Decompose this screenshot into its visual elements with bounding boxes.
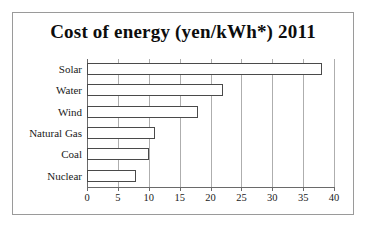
bar-wind bbox=[87, 106, 198, 118]
bar-row: Wind bbox=[87, 102, 334, 123]
bar-water bbox=[87, 84, 223, 96]
x-tick-15 bbox=[180, 187, 181, 191]
bar-coal bbox=[87, 148, 149, 160]
x-tick-25 bbox=[241, 187, 242, 191]
plot-area: SolarWaterWindNatural GasCoalNuclear 051… bbox=[87, 59, 334, 187]
bar-row: Coal bbox=[87, 144, 334, 165]
chart-title: Cost of energy (yen/kWh*) 2011 bbox=[13, 21, 353, 43]
category-label-nuclear: Nuclear bbox=[47, 167, 82, 185]
category-label-water: Water bbox=[56, 81, 82, 99]
x-tick-label-10: 10 bbox=[137, 192, 161, 204]
x-tick-label-5: 5 bbox=[106, 192, 130, 204]
x-tick-label-25: 25 bbox=[229, 192, 253, 204]
x-tick-label-20: 20 bbox=[199, 192, 223, 204]
x-tick-label-15: 15 bbox=[168, 192, 192, 204]
x-tick-30 bbox=[272, 187, 273, 191]
x-tick-10 bbox=[149, 187, 150, 191]
x-tick-35 bbox=[303, 187, 304, 191]
x-tick-0 bbox=[87, 187, 88, 191]
x-tick-label-40: 40 bbox=[322, 192, 346, 204]
x-tick-40 bbox=[334, 187, 335, 191]
x-tick-20 bbox=[211, 187, 212, 191]
category-label-solar: Solar bbox=[59, 60, 82, 78]
category-label-natural-gas: Natural Gas bbox=[29, 124, 82, 142]
bar-series: SolarWaterWindNatural GasCoalNuclear bbox=[87, 59, 334, 187]
x-tick-label-35: 35 bbox=[291, 192, 315, 204]
bar-row: Natural Gas bbox=[87, 123, 334, 144]
chart-figure: Cost of energy (yen/kWh*) 2011 SolarWate… bbox=[12, 12, 354, 215]
bar-row: Water bbox=[87, 80, 334, 101]
category-label-coal: Coal bbox=[61, 145, 82, 163]
x-tick-label-30: 30 bbox=[260, 192, 284, 204]
x-tick-label-0: 0 bbox=[75, 192, 99, 204]
bar-row: Nuclear bbox=[87, 166, 334, 187]
category-label-wind: Wind bbox=[58, 103, 82, 121]
gridline-40 bbox=[334, 59, 335, 187]
bar-row: Solar bbox=[87, 59, 334, 80]
bar-nuclear bbox=[87, 170, 136, 182]
bar-solar bbox=[87, 63, 322, 75]
bar-natural-gas bbox=[87, 127, 155, 139]
x-tick-5 bbox=[118, 187, 119, 191]
